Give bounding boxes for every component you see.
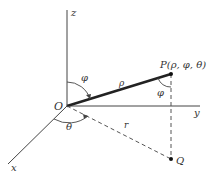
r-dashed-line — [67, 106, 171, 159]
phi-arc-p — [158, 78, 171, 87]
point-p-label: P(ρ, φ, θ) — [159, 59, 206, 70]
origin-label: O — [54, 100, 63, 113]
y-axis-label: y — [193, 107, 200, 118]
rho-label: ρ — [118, 78, 125, 88]
r-label: r — [124, 120, 129, 130]
spherical-coordinates-diagram: z y x O P(ρ, φ, θ) Q ρ r φ φ θ — [0, 0, 208, 173]
x-axis — [8, 106, 67, 164]
x-axis-label: x — [11, 162, 17, 173]
phi-origin-label: φ — [81, 72, 88, 83]
phi-p-label: φ — [157, 87, 164, 98]
z-axis-label: z — [70, 7, 77, 18]
theta-label: θ — [66, 121, 72, 132]
point-q-label: Q — [176, 155, 184, 166]
point-q — [169, 157, 173, 161]
point-p — [169, 72, 173, 76]
phi-arc-origin — [67, 82, 90, 99]
